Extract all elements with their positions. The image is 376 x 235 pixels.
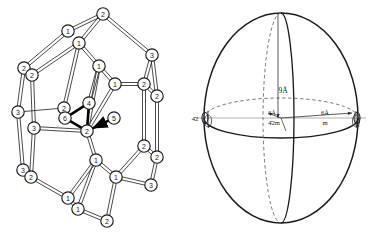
polyhedral-cluster-diagram: 211322112232465322232113112	[12, 8, 163, 227]
cluster-node-label: 2	[62, 105, 66, 112]
cluster-node-label: 3	[150, 52, 154, 59]
cluster-node: 2	[138, 78, 150, 90]
cluster-bond	[99, 162, 112, 174]
label-center-lower: 4̄2m	[268, 119, 281, 126]
cluster-bond	[64, 48, 79, 103]
cluster-node: 2	[81, 125, 93, 137]
cluster-node: 6	[59, 112, 71, 124]
label-center-upper: 3Å	[268, 109, 276, 116]
cluster-bond	[143, 90, 146, 141]
cluster-bond	[24, 108, 59, 111]
cluster-node: 2	[25, 171, 37, 183]
cluster-bond	[107, 182, 117, 216]
cluster-bond	[36, 45, 75, 73]
cluster-bond-layer	[17, 15, 159, 220]
cluster-node-label: 3	[32, 125, 36, 132]
figure-canvas: 211322112232465322232113112	[0, 0, 376, 235]
cluster-node: 2	[138, 140, 150, 152]
label-vertical-axis: 9Å	[278, 86, 288, 95]
cluster-node: 2	[151, 151, 163, 163]
cluster-node-label: 2	[142, 143, 146, 150]
cluster-node-label: 3	[16, 109, 20, 116]
cluster-bond	[151, 60, 158, 90]
cluster-node-label: 1	[94, 157, 98, 164]
cluster-bond	[31, 81, 36, 123]
radius-down-tick	[281, 118, 286, 131]
cluster-bond	[144, 60, 152, 79]
cluster-bond	[72, 15, 98, 30]
cluster-node: 4	[83, 97, 95, 109]
figure-root: 211322112232465322232113112	[0, 0, 376, 235]
cluster-bond	[40, 127, 82, 132]
cluster-node-label: 1	[77, 40, 81, 47]
cluster-node: 2	[151, 90, 163, 102]
cluster-bond	[87, 109, 88, 126]
cluster-node: 1	[62, 25, 74, 37]
cluster-node: 1	[93, 60, 105, 72]
label-left-outer: 4̄2	[192, 115, 199, 122]
cluster-node-label: 1	[66, 195, 70, 202]
cluster-node: 1	[62, 192, 74, 204]
cluster-node-label: 1	[97, 63, 101, 70]
cluster-node-label: 1	[76, 206, 80, 213]
label-right-upper: 6Å	[321, 109, 329, 116]
cluster-node-label: 3	[21, 167, 25, 174]
cluster-bond	[35, 178, 64, 196]
cluster-node: 2	[26, 69, 38, 81]
cluster-bond	[81, 17, 100, 39]
cluster-bond	[121, 83, 139, 86]
cluster-node: 1	[73, 37, 85, 49]
cluster-node: 3	[146, 49, 158, 61]
cluster-bond	[119, 149, 142, 174]
cluster-node-label: 1	[66, 28, 70, 35]
ellipsoid-symmetry-diagram: 9Å 3Å 4̄2m 6Å m 4̄2	[192, 13, 366, 223]
equator-front-arc	[204, 118, 358, 138]
cluster-bond	[30, 133, 35, 171]
cluster-node: 2	[97, 8, 109, 20]
cluster-node: 3	[145, 179, 157, 191]
cluster-bond	[106, 16, 148, 52]
cluster-bond	[151, 162, 158, 180]
cluster-node: 2	[101, 215, 113, 227]
cluster-node-label: 4	[87, 100, 91, 107]
cluster-bond	[70, 106, 85, 115]
cluster-bond	[17, 73, 24, 106]
cluster-bond	[79, 165, 96, 205]
cluster-node-label: 5	[112, 115, 116, 122]
radius-right-arrow	[281, 113, 352, 118]
label-right-lower: m	[322, 119, 328, 126]
cluster-node-label: 1	[113, 81, 117, 88]
cluster-node-label: 2	[155, 154, 159, 161]
cluster-node-label: 2	[30, 72, 34, 79]
cluster-bond	[156, 102, 159, 152]
cluster-node-label: 2	[22, 65, 26, 72]
cluster-node-label: 6	[63, 115, 67, 122]
cluster-node-label: 2	[142, 81, 146, 88]
cluster-node-label: 2	[101, 11, 105, 18]
cluster-node: 5	[108, 112, 120, 124]
cluster-node: 1	[90, 154, 102, 166]
cluster-node: 1	[109, 78, 121, 90]
cluster-node-label: 2	[155, 93, 159, 100]
cluster-bond	[121, 177, 146, 185]
cluster-bond	[70, 121, 82, 128]
equator-back-arc	[204, 98, 358, 118]
cluster-node-label: 3	[149, 182, 153, 189]
cluster-node: 3	[28, 122, 40, 134]
cluster-bond	[17, 117, 24, 164]
cluster-bond	[82, 46, 97, 63]
cluster-node-label: 2	[105, 218, 109, 225]
cluster-node-label: 1	[114, 174, 118, 181]
cluster-bond	[87, 136, 96, 155]
cluster-node: 1	[72, 203, 84, 215]
cluster-node: 1	[110, 171, 122, 183]
cluster-node-label: 2	[85, 128, 89, 135]
cluster-node-label: 2	[29, 174, 33, 181]
cluster-bond	[83, 210, 103, 220]
cluster-node: 3	[12, 106, 24, 118]
cluster-bond	[27, 33, 64, 65]
